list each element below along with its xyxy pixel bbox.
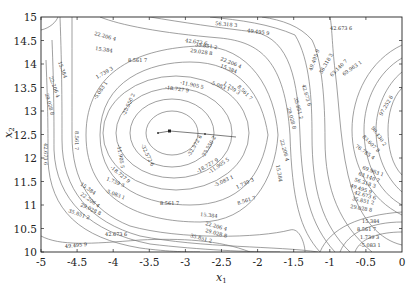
svg-text:-4.5: -4.5 <box>67 256 87 268</box>
svg-text:49.495 9: 49.495 9 <box>65 241 88 249</box>
svg-text:8.561 7: 8.561 7 <box>128 57 147 63</box>
svg-text:13: 13 <box>24 105 37 117</box>
svg-text:-1.5: -1.5 <box>284 256 304 268</box>
y-tick-labels: 10 10.5 11 11.5 12 12.5 13 13.5 14 14.5 … <box>14 11 38 258</box>
svg-text:8.561 7: 8.561 7 <box>160 200 179 206</box>
svg-text:10: 10 <box>24 246 37 258</box>
svg-text:-5.083 1: -5.083 1 <box>360 242 381 248</box>
svg-text:-5.083 1: -5.083 1 <box>213 174 234 188</box>
plot-frame <box>41 17 402 252</box>
svg-text:-4: -4 <box>108 256 119 268</box>
svg-text:15.384: 15.384 <box>95 45 113 53</box>
svg-text:8.561 7: 8.561 7 <box>357 226 376 232</box>
svg-text:49.495 9: 49.495 9 <box>247 27 270 36</box>
svg-text:-2: -2 <box>252 256 262 268</box>
svg-text:42.673 6: 42.673 6 <box>330 25 352 31</box>
svg-text:-5: -5 <box>36 256 46 268</box>
svg-text:-3: -3 <box>180 256 190 268</box>
svg-text:x2: x2 <box>2 127 16 138</box>
svg-text:8.561 7: 8.561 7 <box>74 131 80 150</box>
svg-text:-1: -1 <box>325 256 335 268</box>
contour-plot: 56.318 3 49.495 9 42.673 6 35.851 2 29.0… <box>0 0 413 287</box>
svg-text:-11.905 5: -11.905 5 <box>116 144 126 169</box>
svg-text:12.5: 12.5 <box>14 129 37 141</box>
svg-text:14.5: 14.5 <box>14 35 37 47</box>
y-axis-label: x2 <box>2 127 16 138</box>
svg-text:42.673 6: 42.673 6 <box>43 143 49 165</box>
svg-text:-5.083 1: -5.083 1 <box>105 187 127 200</box>
svg-text:-5.083 1: -5.083 1 <box>92 80 109 100</box>
x-tick-labels: -5 -4.5 -4 -3.5 -3 -2.5 -2 -1.5 -1 -0.5 … <box>36 256 405 268</box>
svg-text:15: 15 <box>24 11 37 23</box>
svg-text:22.206 4: 22.206 4 <box>279 139 291 162</box>
svg-text:-25.550 2: -25.550 2 <box>120 92 136 116</box>
svg-text:1.739 3: 1.739 3 <box>95 65 115 80</box>
svg-text:-0.5: -0.5 <box>356 256 376 268</box>
svg-text:56.318 3: 56.318 3 <box>215 20 238 28</box>
svg-text:42.673 6: 42.673 6 <box>301 84 313 107</box>
svg-text:10.5: 10.5 <box>14 223 37 235</box>
svg-text:-2.5: -2.5 <box>211 256 231 268</box>
svg-text:42.673 6: 42.673 6 <box>105 231 127 237</box>
svg-text:22.206 4: 22.206 4 <box>94 30 117 42</box>
svg-text:12: 12 <box>24 152 37 164</box>
svg-text:x1: x1 <box>216 271 227 285</box>
x-axis-label: x1 <box>216 271 227 285</box>
svg-text:-3.5: -3.5 <box>139 256 159 268</box>
svg-text:15.384: 15.384 <box>200 211 218 219</box>
svg-text:11: 11 <box>24 199 37 211</box>
svg-text:15.384: 15.384 <box>362 218 380 224</box>
svg-text:11.5: 11.5 <box>14 176 37 188</box>
svg-text:-32.572 6: -32.572 6 <box>140 143 156 167</box>
contour-lines <box>41 17 402 252</box>
svg-text:15.384: 15.384 <box>275 164 284 182</box>
svg-text:1.739 3: 1.739 3 <box>235 176 255 190</box>
svg-text:15.384: 15.384 <box>57 60 69 78</box>
svg-text:8.561 7: 8.561 7 <box>236 194 256 206</box>
svg-text:0: 0 <box>399 256 406 268</box>
svg-text:29.028 8: 29.028 8 <box>286 107 298 130</box>
svg-text:13.5: 13.5 <box>14 82 37 94</box>
svg-text:-25.550 2: -25.550 2 <box>200 135 217 159</box>
svg-text:14: 14 <box>24 58 38 70</box>
svg-text:1.739 3: 1.739 3 <box>360 234 379 240</box>
